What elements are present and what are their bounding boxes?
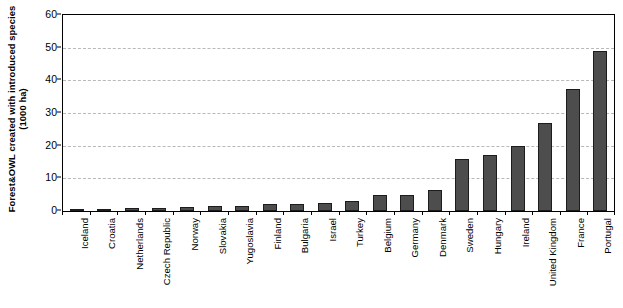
x-label-slot: Yugoslavia (227, 216, 255, 308)
bar-slot (449, 15, 477, 211)
bar-chart: Forest&OWL created with introduced speci… (0, 0, 623, 308)
x-axis-tick-mark (339, 211, 340, 215)
bar-slot (256, 15, 284, 211)
x-axis-tick-mark (394, 211, 395, 215)
bar (455, 159, 469, 211)
bar-slot (476, 15, 504, 211)
bar-slot (366, 15, 394, 211)
y-axis-tick-label: 30 (45, 106, 57, 118)
x-axis-category-label: Germany (410, 218, 420, 257)
x-axis-tick-mark (200, 211, 201, 215)
x-axis-category-label: Belgium (383, 218, 393, 253)
y-axis-tick-mark (57, 14, 61, 15)
x-axis-category-label: Bulgaria (300, 218, 310, 253)
bar-slot (394, 15, 422, 211)
bar (511, 146, 525, 211)
x-label-slot: Ireland (503, 216, 531, 308)
bar-slot (63, 15, 91, 211)
bar-slot (283, 15, 311, 211)
x-axis-category-label: Hungary (493, 218, 503, 254)
bar (290, 204, 304, 211)
x-axis-category-label: Netherlands (135, 218, 145, 270)
x-axis-category-label: Turkey (355, 218, 365, 247)
x-label-slot: Belgium (365, 216, 393, 308)
x-axis-tick-mark (366, 211, 367, 215)
bar-slot (531, 15, 559, 211)
x-axis-category-label: Portugal (603, 218, 613, 254)
bar-slot (118, 15, 146, 211)
x-axis-tick-mark (90, 211, 91, 215)
x-label-slot: Israel (310, 216, 338, 308)
x-axis-category-label: France (576, 218, 586, 248)
y-axis-tick-label: 10 (45, 171, 57, 183)
bar-slot (146, 15, 174, 211)
bar (428, 190, 442, 211)
bar-slot (421, 15, 449, 211)
x-label-slot: Slovakia (200, 216, 228, 308)
x-label-slot: Hungary (475, 216, 503, 308)
bar-slot (338, 15, 366, 211)
plot-area (62, 14, 615, 212)
x-axis-tick-mark (311, 211, 312, 215)
y-axis-tick-mark (57, 46, 61, 47)
x-label-slot: Czech Republic (145, 216, 173, 308)
bar (400, 195, 414, 211)
x-axis-tick-mark (256, 211, 257, 215)
x-label-slot: Sweden (448, 216, 476, 308)
bar (566, 89, 580, 212)
x-axis-tick-mark (117, 211, 118, 215)
x-axis-tick-mark (532, 211, 533, 215)
y-axis-tick-mark (57, 210, 61, 211)
x-axis-category-label: Sweden (465, 218, 475, 253)
y-axis-tick-mark (57, 79, 61, 80)
y-axis-title-line2: (1000 ha) (17, 88, 28, 130)
x-axis-category-label: Ireland (521, 218, 531, 247)
y-axis-tick-mark (57, 112, 61, 113)
x-axis-category-label: Finland (273, 218, 283, 249)
x-axis-tick-mark (477, 211, 478, 215)
y-axis-tick-labels: 0102030405060 (34, 0, 61, 218)
x-axis-tick-mark (560, 211, 561, 215)
y-axis-tick-label: 40 (45, 73, 57, 85)
x-axis-tick-mark (587, 211, 588, 215)
y-axis-tick-label: 60 (45, 8, 57, 20)
x-label-slot: Turkey (337, 216, 365, 308)
x-axis-tick-mark (62, 211, 63, 215)
y-axis-tick-label: 20 (45, 139, 57, 151)
x-label-slot: Netherlands (117, 216, 145, 308)
bar (483, 155, 497, 211)
x-axis-category-label: Israel (328, 218, 338, 241)
x-axis-category-label: Croatia (107, 218, 117, 249)
x-axis-category-label: Norway (190, 218, 200, 251)
bar-slot (504, 15, 532, 211)
bar-slot (91, 15, 119, 211)
x-axis-category-label: Czech Republic (162, 218, 172, 285)
x-label-slot: Norway (172, 216, 200, 308)
x-axis-tick-mark (505, 211, 506, 215)
x-label-slot: Finland (255, 216, 283, 308)
x-label-slot: Denmark (420, 216, 448, 308)
x-axis-tick-mark (614, 211, 615, 215)
x-label-slot: Bulgaria (282, 216, 310, 308)
y-axis-tick-label: 50 (45, 41, 57, 53)
y-axis-tick-mark (57, 144, 61, 145)
bars-container (63, 15, 614, 211)
x-label-slot: Germany (393, 216, 421, 308)
x-label-slot: Portugal (585, 216, 613, 308)
x-label-slot: Iceland (62, 216, 90, 308)
x-axis-category-label: Yugoslavia (245, 218, 255, 264)
y-axis-tick-mark (57, 177, 61, 178)
x-label-slot: France (558, 216, 586, 308)
bar-slot (228, 15, 256, 211)
bar (345, 201, 359, 211)
x-axis-category-labels: IcelandCroatiaNetherlandsCzech RepublicN… (62, 216, 613, 308)
bar (318, 203, 332, 211)
bar-slot (311, 15, 339, 211)
bar-slot (559, 15, 587, 211)
y-axis-title-line1: Forest&OWL created with introduced speci… (6, 6, 17, 213)
x-axis-tick-mark (145, 211, 146, 215)
bar (538, 123, 552, 211)
x-axis-tick-mark (173, 211, 174, 215)
x-axis-category-label: United Kingdom (548, 218, 558, 286)
bar (593, 51, 607, 211)
